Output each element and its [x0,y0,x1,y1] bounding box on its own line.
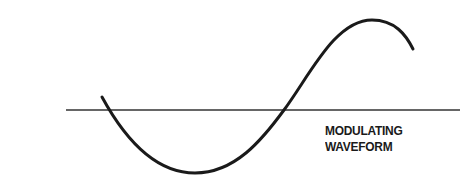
waveform-label: MODULATING WAVEFORM [325,123,402,155]
label-line-1: MODULATING [325,123,402,139]
modulating-waveform-diagram: MODULATING WAVEFORM [0,0,476,189]
label-line-2: WAVEFORM [325,139,402,155]
waveform-plot [0,0,476,189]
